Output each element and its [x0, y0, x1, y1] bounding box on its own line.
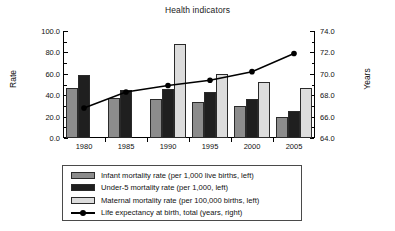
x-axis-tick-mark [231, 138, 232, 142]
y-axis-left-tick-label: 40.0 [45, 91, 60, 100]
legend-item-label: Maternal mortality rate (per 100,000 bir… [101, 196, 259, 205]
x-axis-tick-label-1990: 1990 [160, 142, 177, 151]
legend-swatch-maternal-icon [71, 197, 95, 204]
x-axis-tick-mark [189, 138, 190, 142]
y-axis-right-tick-label: 64.0 [320, 134, 335, 143]
legend-item-label: Life expectancy at birth, total (years, … [101, 208, 242, 217]
life-expectancy-line-layer [63, 31, 315, 138]
health-indicators-chart: Health indicators Rate Years 0.020.040.0… [0, 0, 395, 231]
legend-item[interactable]: Infant mortality rate (per 1,000 live bi… [67, 169, 297, 182]
life-expectancy-marker-2005 [291, 51, 297, 57]
y-axis-right-tick-mark [310, 138, 314, 139]
legend-item[interactable]: Life expectancy at birth, total (years, … [67, 207, 297, 220]
y-axis-left-tick-label: 0.0 [50, 134, 60, 143]
y-axis-left-ticks: 0.020.040.060.080.0100.0 [20, 0, 60, 231]
x-axis-tick-label-1985: 1985 [118, 142, 135, 151]
chart-legend: Infant mortality rate (per 1,000 live bi… [62, 165, 302, 221]
y-axis-right-tick-label: 72.0 [320, 48, 335, 57]
y-axis-right-title: Years [362, 49, 372, 109]
life-expectancy-marker-1990 [165, 83, 171, 89]
y-axis-left-tick-label: 80.0 [45, 48, 60, 57]
life-expectancy-marker-1980 [81, 105, 87, 111]
y-axis-left-tick-mark [64, 138, 68, 139]
legend-swatch-under5-icon [71, 184, 95, 191]
x-axis-tick-label-1995: 1995 [202, 142, 219, 151]
legend-line-marker-icon [71, 209, 95, 216]
life-expectancy-marker-1985 [123, 89, 129, 95]
life-expectancy-marker-1995 [207, 77, 213, 83]
x-axis-tick-mark [147, 138, 148, 142]
x-axis-tick-label-1980: 1980 [76, 142, 93, 151]
x-axis-tick-mark [273, 138, 274, 142]
y-axis-right-ticks: 64.066.068.070.072.074.0 [320, 0, 360, 231]
x-axis-tick-mark [105, 138, 106, 142]
y-axis-left-tick-label: 20.0 [45, 112, 60, 121]
y-axis-left-title: Rate [8, 49, 18, 109]
legend-item[interactable]: Under-5 mortality rate (per 1,000, left) [67, 182, 297, 195]
legend-item-label: Under-5 mortality rate (per 1,000, left) [101, 183, 228, 192]
legend-swatch-infant-icon [71, 172, 95, 179]
x-axis-tick-label-2000: 2000 [244, 142, 261, 151]
legend-item[interactable]: Maternal mortality rate (per 100,000 bir… [67, 194, 297, 207]
y-axis-right-tick-label: 68.0 [320, 91, 335, 100]
life-expectancy-line [84, 53, 294, 108]
y-axis-left-tick-label: 100.0 [41, 27, 60, 36]
x-axis-tick-label-2005: 2005 [286, 142, 303, 151]
life-expectancy-marker-2000 [249, 69, 255, 75]
y-axis-right-tick-label: 70.0 [320, 69, 335, 78]
y-axis-left-tick-label: 60.0 [45, 69, 60, 78]
y-axis-right-tick-label: 74.0 [320, 27, 335, 36]
y-axis-right-tick-label: 66.0 [320, 112, 335, 121]
legend-item-label: Infant mortality rate (per 1,000 live bi… [101, 171, 254, 180]
